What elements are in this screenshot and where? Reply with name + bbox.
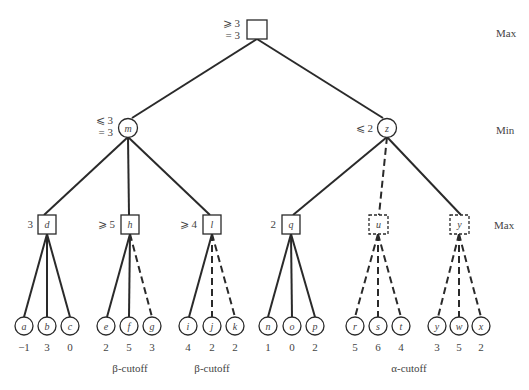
h-value: ⩾ 5 [98, 218, 116, 230]
leaf-y: y3 [428, 317, 446, 353]
l-value: ⩾ 4 [180, 218, 198, 230]
svg-text:w: w [456, 321, 463, 332]
leaf-c: c0 [61, 317, 79, 353]
leaf-g: g3 [143, 317, 161, 353]
leaf-e-value: 2 [103, 341, 109, 353]
svg-text:o: o [290, 321, 295, 332]
leaf-w-value: 5 [456, 341, 462, 353]
leaf-n-value: 1 [265, 341, 271, 353]
level-label-max-top: Max [496, 27, 517, 39]
leaf-a-value: −1 [18, 341, 30, 353]
svg-text:u: u [376, 219, 381, 230]
leaf-r-value: 5 [352, 341, 358, 353]
leaf-s-value: 6 [375, 341, 381, 353]
svg-text:h: h [128, 219, 133, 230]
svg-text:p: p [312, 321, 318, 332]
svg-text:e: e [104, 321, 109, 332]
svg-text:l: l [211, 219, 214, 230]
svg-text:z: z [384, 123, 389, 134]
max-node-u: u [369, 215, 388, 234]
z-bound-upper: ⩽ 2 [356, 122, 373, 134]
svg-text:a: a [22, 321, 27, 332]
leaves: a−1 b3 c0 e2 f5 g3 i4 j2 k2 n1 o0 p2 r5 … [15, 317, 490, 353]
leaf-r: r5 [346, 317, 364, 353]
leaf-p-value: 2 [312, 341, 318, 353]
root-bound-value: = 3 [226, 29, 241, 41]
leaf-n: n1 [259, 317, 277, 353]
leaf-t-value: 4 [398, 341, 404, 353]
leaf-p: p2 [306, 317, 324, 353]
svg-text:t: t [400, 321, 403, 332]
svg-text:y: y [456, 219, 462, 230]
max-node-l: l ⩾ 4 [180, 215, 221, 234]
max-node-h: h ⩾ 5 [98, 215, 139, 234]
svg-text:x: x [478, 321, 484, 332]
leaf-y-value: 3 [434, 341, 440, 353]
svg-text:n: n [266, 321, 271, 332]
leaf-k-value: 2 [232, 341, 238, 353]
svg-text:b: b [45, 321, 50, 332]
svg-text:q: q [289, 219, 294, 230]
d-value: 3 [28, 218, 34, 230]
leaf-i: i4 [179, 317, 197, 353]
max-node-y: y [450, 215, 469, 234]
leaf-s: s6 [369, 317, 387, 353]
svg-text:r: r [353, 321, 357, 332]
leaf-c-value: 0 [67, 341, 73, 353]
leaf-i-value: 4 [185, 341, 191, 353]
min-node-z: z ⩽ 2 [356, 119, 397, 138]
leaf-o: o0 [283, 317, 301, 353]
root-bound-lower: ⩾ 3 [223, 17, 241, 29]
svg-text:i: i [187, 321, 190, 332]
beta-cutoff-label-l: β-cutoff [194, 362, 230, 374]
leaf-j: j2 [203, 317, 221, 353]
root-node: ⩾ 3 = 3 [223, 17, 267, 41]
alpha-cutoff-label: α-cutoff [391, 362, 427, 374]
svg-text:y: y [434, 321, 440, 332]
max-node-d: d 3 [28, 215, 57, 234]
minimax-tree-diagram: ⩾ 3 = 3 m ⩽ 3 = 3 z ⩽ 2 d 3 h ⩾ 5 l ⩾ 4 … [0, 0, 529, 390]
level-label-max-bottom: Max [494, 219, 515, 231]
leaf-x-value: 2 [478, 341, 484, 353]
level-label-min: Min [496, 124, 515, 136]
leaf-k: k2 [226, 317, 244, 353]
leaf-b-value: 3 [44, 341, 50, 353]
edges [24, 39, 481, 317]
m-bound-value: = 3 [99, 126, 114, 138]
leaf-x: x2 [472, 317, 490, 353]
svg-text:g: g [150, 321, 155, 332]
m-bound-upper: ⩽ 3 [96, 114, 114, 126]
leaf-o-value: 0 [289, 341, 295, 353]
leaf-g-value: 3 [149, 341, 155, 353]
leaf-j-value: 2 [209, 341, 215, 353]
svg-text:c: c [68, 321, 73, 332]
svg-text:k: k [233, 321, 238, 332]
max-node-q: q 2 [271, 215, 301, 234]
leaf-t: t4 [392, 317, 410, 353]
min-node-m: m ⩽ 3 = 3 [96, 114, 138, 138]
leaf-f-value: 5 [126, 341, 132, 353]
leaf-e: e2 [97, 317, 115, 353]
beta-cutoff-label-h: β-cutoff [112, 362, 148, 374]
q-value: 2 [271, 218, 277, 230]
leaf-w: w5 [450, 317, 468, 353]
svg-text:m: m [124, 123, 131, 134]
leaf-b: b3 [38, 317, 56, 353]
leaf-a: a−1 [15, 317, 33, 353]
leaf-f: f5 [120, 317, 138, 353]
svg-text:s: s [376, 321, 380, 332]
